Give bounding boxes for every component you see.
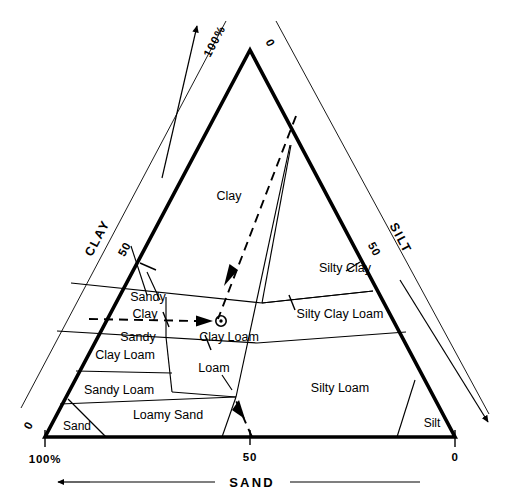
boundary-sandyloam-upper xyxy=(76,371,172,373)
label-sandy-clay-loam-line1: Sandy xyxy=(120,330,156,344)
label-loam: Loam xyxy=(198,361,229,375)
sample-crosshair-tick-2 xyxy=(289,295,295,310)
clay-axis-arrow xyxy=(162,26,197,178)
label-loamy-sand: Loamy Sand xyxy=(133,408,203,422)
boundary-loamysand-right xyxy=(222,397,236,437)
boundary-sandyloam-loamysand xyxy=(60,397,236,404)
silt-axis-guide-line xyxy=(276,21,489,414)
soil-texture-triangle-figure: Clay Silty Clay Sandy Clay Silty Clay Lo… xyxy=(0,0,521,494)
label-silty-clay: Silty Clay xyxy=(319,261,372,275)
label-sandy-loam: Sandy Loam xyxy=(84,383,154,397)
boundary-silt-left xyxy=(397,380,415,437)
ternary-diagram-canvas: Clay Silty Clay Sandy Clay Silty Clay Lo… xyxy=(0,0,521,494)
silt-reading-dashed-line xyxy=(218,116,296,319)
silt-axis-label-50: 50 xyxy=(366,240,383,258)
label-silty-loam: Silty Loam xyxy=(311,381,369,395)
sample-point-dot xyxy=(219,319,222,322)
boundary-loam-lower xyxy=(172,392,236,397)
outer-axis-guides xyxy=(21,21,489,414)
sand-axis-name: SAND xyxy=(229,475,275,490)
sand-axis-label-50: 50 xyxy=(243,451,257,463)
clay-axis-label-0: 0 xyxy=(21,419,35,431)
silt-axis-label-0: 0 xyxy=(264,37,278,49)
clay-reading-arrowhead xyxy=(196,316,213,327)
loam-leader-line xyxy=(222,375,232,390)
sand-axis-label-0: 0 xyxy=(451,451,458,463)
boundary-sandyclayloam-right xyxy=(166,337,172,392)
label-sand: Sand xyxy=(63,419,91,433)
boundary-loam-siltyloam xyxy=(236,145,290,397)
boundary-clay-siltyclay xyxy=(262,145,291,303)
label-sandy-clay-loam-line2: Clay Loam xyxy=(95,348,155,362)
clay-axis-name: CLAY xyxy=(82,217,113,258)
triangle-outline xyxy=(45,50,455,437)
texture-class-labels: Clay Silty Clay Sandy Clay Silty Clay Lo… xyxy=(63,189,441,433)
label-sandy-clay-line1: Sandy xyxy=(130,290,166,304)
label-silty-clay-loam: Silty Clay Loam xyxy=(297,307,384,321)
label-clay: Clay xyxy=(216,189,242,203)
clay-axis-label-100: 100% xyxy=(201,23,227,59)
label-silt: Silt xyxy=(424,416,441,430)
label-clay-loam: Clay Loam xyxy=(199,330,259,344)
clay-axis-label-50: 50 xyxy=(116,240,133,258)
clay-tick-50 xyxy=(140,263,156,270)
boundary-siltyclay-siltyclayloam xyxy=(262,291,373,303)
sample-point-marker[interactable] xyxy=(216,316,226,326)
sand-axis-label-100: 100% xyxy=(29,453,62,465)
silt-axis-arrow xyxy=(400,280,488,422)
silt-axis-name: SILT xyxy=(387,220,415,255)
label-sandy-clay-line2: Clay xyxy=(132,307,158,321)
triangle-border xyxy=(45,50,455,437)
